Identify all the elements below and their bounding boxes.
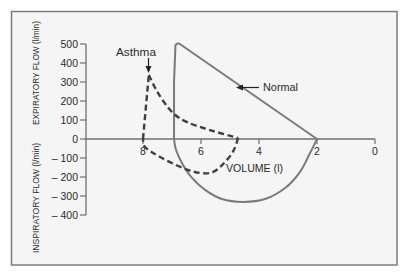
- normal-label: Normal: [263, 81, 298, 93]
- y-tick-label: 200: [60, 95, 78, 107]
- x-tick-label: 4: [256, 145, 262, 157]
- y-tick-label: 400: [60, 57, 78, 69]
- y-axis-title-inspiratory: INSPIRATORY FLOW (l/min): [30, 143, 41, 253]
- y-tick-label: 100: [60, 114, 78, 126]
- x-tick-label: 2: [314, 145, 320, 157]
- y-axis-title-expiratory: EXPIRATORY FLOW (l/min): [30, 21, 41, 125]
- y-tick-label: – 400: [52, 209, 78, 221]
- y-tick-label: – 100: [52, 152, 78, 164]
- y-tick-label: 0: [72, 133, 78, 145]
- y-tick-label: – 200: [52, 171, 78, 183]
- x-axis-title: VOLUME (l): [226, 162, 283, 174]
- asthma-label: Asthma: [116, 46, 157, 58]
- x-tick-label: 0: [372, 145, 378, 157]
- y-tick-label: 300: [60, 76, 78, 88]
- x-tick-label: 6: [198, 145, 204, 157]
- y-tick-label: – 300: [52, 190, 78, 202]
- flow-volume-chart: EXPIRATORY FLOW (l/min) INSPIRATORY FLOW…: [0, 0, 407, 277]
- y-tick-label: 500: [60, 38, 78, 50]
